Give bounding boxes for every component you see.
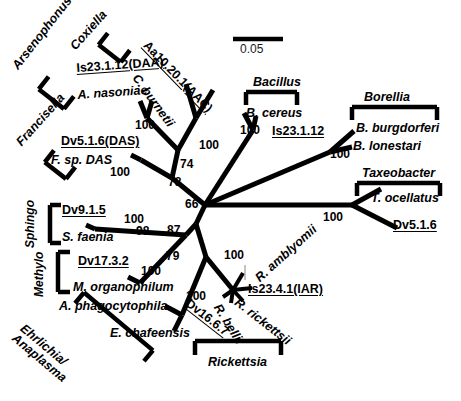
bootstrap-alpha-stem: 87 (167, 224, 180, 236)
bracket-bacillus (246, 92, 297, 105)
branch-coxiella-stem (178, 118, 196, 150)
bootstrap-taxeobacter: 100 (323, 211, 343, 223)
bootstrap-gamma-stem: 78 (168, 176, 181, 188)
bracket-methylo (58, 252, 70, 292)
tip-label-a-phagocytophila: A. phagocytophila (59, 300, 167, 313)
tip-label-dv9-1-5: Dv9.1.5 (62, 204, 106, 217)
bootstrap-sphingo-stem: 98 (136, 225, 149, 237)
group-label-bacillus: Bacillus (253, 76, 301, 89)
tip-label-m-organophilum: M. organophilum (73, 281, 174, 294)
phylogenetic-tree-figure: 0.05 Arsenophonus Is23.1.12(DAA) A. naso… (0, 0, 461, 401)
bootstrap-coxiella-stem: 74 (180, 158, 193, 170)
bootstrap-methylo: 100 (141, 265, 161, 277)
tip-label-s-faenia: S. faenia (62, 231, 113, 244)
branch-node74 (172, 150, 178, 178)
tip-label-e-chafeensis: E. chafeensis (110, 327, 190, 340)
tip-label-is23-4-1-iar: Is23.4.1(IAR) (248, 283, 323, 296)
bootstrap-coxiella: 100 (199, 139, 219, 151)
group-label-taxeobacter: Taxeobacter (362, 167, 435, 180)
branch-f-sp-das (131, 155, 141, 160)
scale-bar-label: 0.05 (240, 43, 263, 55)
group-label-borellia: Borellia (364, 91, 410, 104)
bracket-borellia (352, 107, 437, 120)
branch-rickettsiales-stem (196, 224, 206, 257)
group-label-methylo: Methylo (33, 252, 45, 297)
tip-label-is23-1-12: Is23.1.12 (272, 125, 324, 138)
tip-label-f-sp-das: F. sp. DAS (51, 154, 112, 167)
bootstrap-arsenophonus: 100 (135, 119, 155, 131)
tip-label-dv5-1-6: Dv5.1.6 (393, 219, 437, 232)
group-label-sphingo: Sphingo (24, 200, 36, 248)
tip-label-t-ocellatus: T. ocellatus (371, 192, 439, 205)
bootstrap-francisella: 100 (110, 166, 130, 178)
bootstrap-bacillus: 100 (240, 124, 260, 136)
bootstrap-rickettsiales: 79 (166, 250, 179, 262)
branch-dv9-1-5 (86, 225, 95, 229)
bracket-sphingo (50, 205, 61, 243)
branch-dv5-1-6 (352, 205, 397, 228)
group-label-rickettsia: Rickettsia (208, 356, 267, 369)
bootstrap-rickettsia: 100 (224, 249, 244, 261)
tip-label-dv17-3-2: Dv17.3.2 (78, 255, 129, 268)
tip-label-b-lonestari: B. lonestari (353, 140, 421, 153)
tip-label-b-cereus: B. cereus (246, 107, 302, 120)
tip-label-dv5-1-6-das: Dv5.1.6(DAS) (61, 135, 140, 148)
branch-a-phagocytophila (165, 306, 182, 315)
bootstrap-center: 66 (185, 198, 198, 210)
bootstrap-borellia: 100 (330, 148, 350, 160)
tip-label-b-burgdorferi: B. burgdorferi (356, 122, 439, 135)
